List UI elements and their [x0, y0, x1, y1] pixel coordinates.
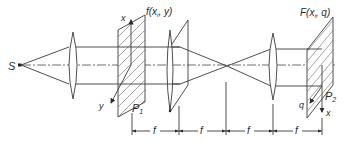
p2-q-label: q — [299, 100, 304, 110]
p2-x-label: x — [325, 108, 331, 118]
ray-diverging2-top — [227, 49, 271, 66]
lens-3 — [269, 33, 277, 100]
p1-y-label: y — [98, 101, 104, 111]
optical-diagram: S x y — [0, 0, 345, 142]
p1-function-label: f(xi, y) — [146, 6, 172, 18]
dimension-line: f f f f — [132, 125, 322, 136]
dim-label-4: f — [295, 125, 299, 136]
ray-converging-bottom — [180, 66, 227, 84]
input-plane-p1: x y f(xi, y) P1 — [98, 5, 172, 142]
light-source: S — [8, 60, 22, 72]
p2-function-label: F(xi, q) — [300, 7, 330, 19]
p1-x-label: x — [120, 13, 126, 23]
lens-2 — [167, 20, 188, 112]
ray-diverging-top — [21, 47, 69, 65]
dim-label-2: f — [200, 125, 204, 136]
p2-label: P2 — [325, 90, 336, 103]
source-label: S — [8, 60, 16, 72]
dim-label-3: f — [247, 125, 251, 136]
output-plane-p2: x q F(xi, q) P2 — [299, 7, 340, 140]
ray-diverging2-bottom — [227, 66, 271, 86]
ray-diverging-bottom — [21, 65, 69, 84]
dim-label-1: f — [153, 125, 157, 136]
ray-converging-top — [180, 47, 227, 66]
lens-1 — [69, 32, 77, 99]
